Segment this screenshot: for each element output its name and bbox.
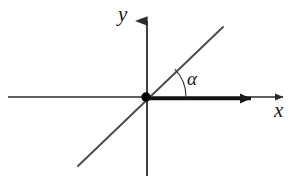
coordinate-diagram: y x α <box>0 0 300 179</box>
origin-dot <box>141 92 150 101</box>
x-axis-label: x <box>274 100 283 121</box>
angle-alpha-label: α <box>187 69 197 88</box>
y-axis-label: y <box>118 4 127 25</box>
angle-arc <box>175 69 186 97</box>
diagram-canvas <box>0 0 300 179</box>
